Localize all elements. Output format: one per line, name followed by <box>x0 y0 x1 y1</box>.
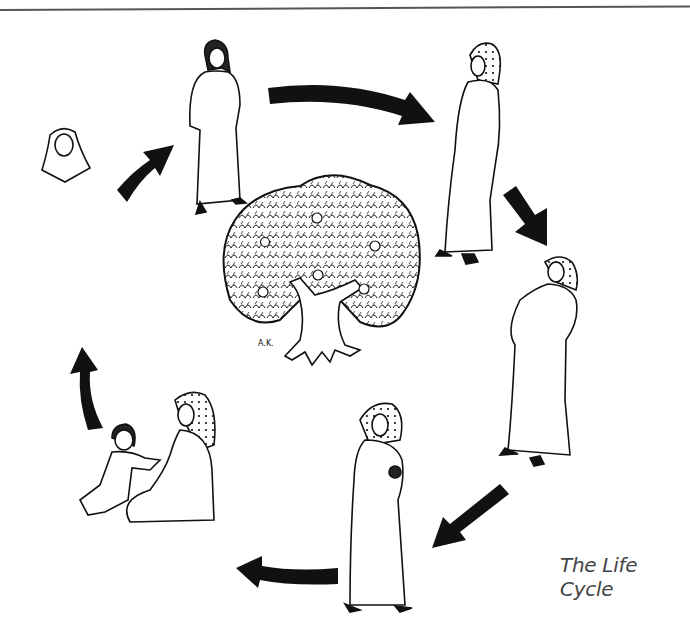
arrow-5-to-6 <box>70 347 103 430</box>
arrow-1-to-2 <box>268 85 435 125</box>
arrow-3-to-4 <box>432 484 509 548</box>
arrow-4-to-5 <box>236 556 338 588</box>
figure-mother-with-toddler <box>80 392 215 522</box>
figure-elder-with-girl <box>42 129 90 182</box>
figure-pregnant-woman <box>500 257 577 466</box>
arrow-6-to-1 <box>117 145 174 202</box>
figure-mother-with-newborn <box>345 403 412 612</box>
figure-young-woman <box>436 43 500 264</box>
apple-tree: A.K. <box>224 175 420 365</box>
arrow-2-to-3 <box>503 186 547 246</box>
diagram-caption: The Life Cycle <box>560 553 690 601</box>
figure-young-girl <box>190 40 246 214</box>
artist-signature: A.K. <box>258 339 274 348</box>
life-cycle-diagram: A.K. <box>0 0 690 626</box>
